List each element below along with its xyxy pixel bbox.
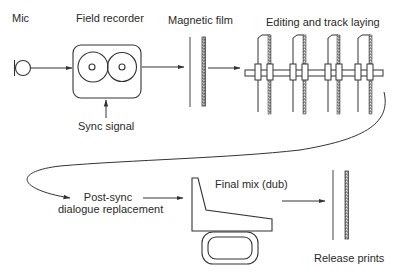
sync-signal-label: Sync signal	[78, 120, 134, 132]
workflow-diagram: Mic Field recorder Sync signal Magnetic …	[0, 0, 396, 277]
magnetic-film-label: Magnetic film	[168, 14, 233, 26]
post-sync-label: Post-sync dialogue replacement	[58, 191, 158, 215]
film-strip-icon	[190, 37, 206, 107]
final-mix-label: Final mix (dub)	[215, 178, 288, 190]
synchroniser-icon	[245, 35, 383, 114]
mixing-console-icon	[192, 178, 272, 264]
post-sync-label-line2: dialogue replacement	[58, 203, 158, 215]
film-strip-icon	[333, 170, 349, 240]
release-prints-label: Release prints	[314, 252, 384, 264]
mic-label: Mic	[12, 12, 29, 24]
field-recorder-label: Field recorder	[76, 12, 144, 24]
arrow-editing-to-postsync	[27, 92, 385, 198]
post-sync-label-line1: Post-sync	[58, 191, 158, 203]
editing-label: Editing and track laying	[266, 16, 380, 28]
microphone-icon	[15, 60, 31, 76]
diagram-graphics	[0, 0, 396, 277]
tape-recorder-icon	[73, 45, 141, 98]
